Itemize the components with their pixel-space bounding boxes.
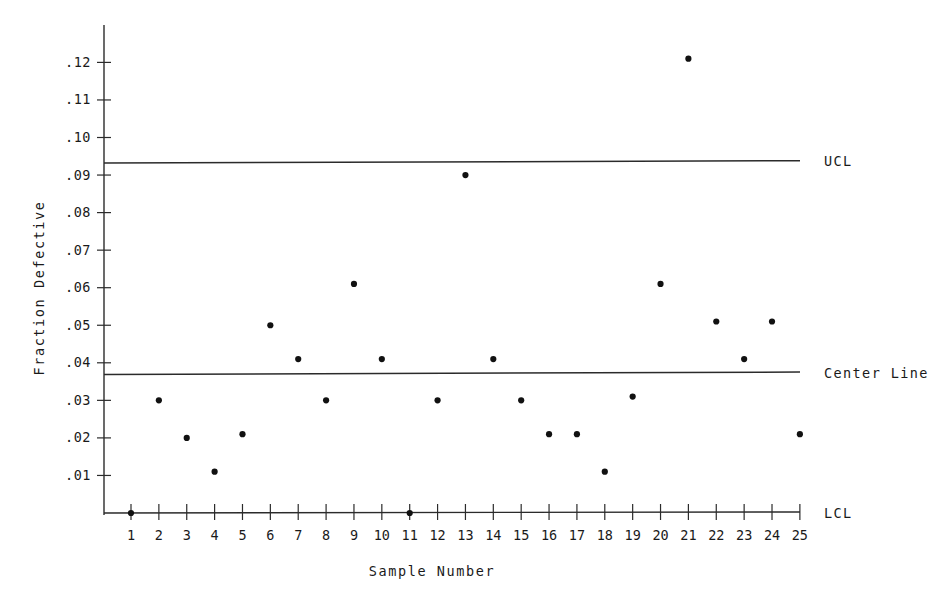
y-axis: .12.11.10.09.08.07.06.05.04.03.02.01 — [65, 25, 111, 515]
data-points — [128, 56, 803, 517]
x-tick-label: 12 — [429, 527, 445, 543]
data-point — [657, 281, 663, 287]
data-point — [267, 322, 273, 328]
y-tick-label: .12 — [65, 54, 91, 70]
x-tick-label: 9 — [350, 527, 358, 543]
x-tick-label: 15 — [513, 527, 529, 543]
chart-canvas: .12.11.10.09.08.07.06.05.04.03.02.01 123… — [0, 0, 947, 600]
y-tick-label: .04 — [65, 354, 91, 370]
data-point — [518, 397, 524, 403]
x-tick-label: 25 — [792, 527, 808, 543]
x-tick-label: 16 — [541, 527, 557, 543]
data-point — [212, 469, 218, 475]
data-point — [407, 510, 413, 516]
data-point — [184, 435, 190, 441]
data-point — [769, 318, 775, 324]
x-tick-label: 6 — [266, 527, 274, 543]
x-tick-label: 5 — [238, 527, 246, 543]
limit-line-ucl — [104, 161, 800, 163]
x-tick-label: 1 — [127, 527, 135, 543]
y-tick-label: .05 — [65, 317, 91, 333]
x-axis-title: Sample Number — [369, 563, 495, 579]
x-tick-label: 2 — [155, 527, 163, 543]
data-point — [156, 397, 162, 403]
data-point — [323, 397, 329, 403]
y-tick-label: .09 — [65, 167, 91, 183]
data-point — [239, 431, 245, 437]
data-point — [741, 356, 747, 362]
x-axis: 1234567891011121314151617181920212223242… — [104, 504, 808, 543]
data-point — [462, 172, 468, 178]
data-point — [295, 356, 301, 362]
x-tick-label: 11 — [402, 527, 418, 543]
data-point — [685, 56, 691, 62]
y-tick-label: .10 — [65, 129, 91, 145]
limit-label-ucl: UCL — [824, 153, 853, 169]
x-tick-label: 7 — [294, 527, 302, 543]
data-point — [797, 431, 803, 437]
control-limit-lines: UCLCenter LineLCL — [104, 153, 929, 520]
limit-label-center-line: Center Line — [824, 365, 929, 381]
x-tick-label: 24 — [764, 527, 780, 543]
y-tick-label: .07 — [65, 242, 91, 258]
x-tick-label: 17 — [569, 527, 585, 543]
x-tick-label: 21 — [680, 527, 696, 543]
x-tick-label: 13 — [457, 527, 473, 543]
x-tick-label: 8 — [322, 527, 330, 543]
control-chart: .12.11.10.09.08.07.06.05.04.03.02.01 123… — [0, 0, 947, 600]
data-point — [490, 356, 496, 362]
limit-label-lcl: LCL — [824, 505, 853, 521]
data-point — [379, 356, 385, 362]
limit-line-center-line — [104, 372, 800, 374]
data-point — [434, 397, 440, 403]
data-point — [630, 393, 636, 399]
data-point — [351, 281, 357, 287]
x-tick-label: 19 — [625, 527, 641, 543]
y-tick-label: .03 — [65, 392, 91, 408]
x-axis-spine — [104, 512, 800, 513]
data-point — [128, 510, 134, 516]
data-point — [602, 469, 608, 475]
x-tick-label: 10 — [374, 527, 390, 543]
x-tick-label: 22 — [708, 527, 724, 543]
axis-titles: Sample NumberFraction Defective — [31, 200, 495, 579]
y-tick-label: .01 — [65, 467, 91, 483]
y-tick-label: .08 — [65, 204, 91, 220]
x-tick-label: 3 — [183, 527, 191, 543]
y-tick-label: .02 — [65, 429, 91, 445]
x-tick-label: 14 — [485, 527, 501, 543]
x-tick-label: 23 — [736, 527, 752, 543]
y-tick-label: .06 — [65, 279, 91, 295]
data-point — [713, 318, 719, 324]
y-axis-title: Fraction Defective — [31, 200, 47, 375]
data-point — [546, 431, 552, 437]
y-tick-label: .11 — [65, 91, 91, 107]
x-tick-label: 4 — [211, 527, 219, 543]
data-point — [574, 431, 580, 437]
x-tick-label: 20 — [652, 527, 668, 543]
x-tick-label: 18 — [597, 527, 613, 543]
